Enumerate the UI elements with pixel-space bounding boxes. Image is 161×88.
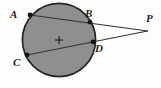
- geometry-figure: A B C D P: [0, 0, 161, 88]
- point-b-dot: [88, 20, 93, 25]
- point-label-d: D: [95, 43, 103, 54]
- point-c-dot: [25, 53, 30, 58]
- point-label-p: P: [146, 13, 153, 24]
- geometry-canvas: [0, 0, 161, 88]
- point-label-a: A: [10, 9, 17, 20]
- point-label-c: C: [13, 57, 20, 68]
- point-label-b: B: [85, 8, 92, 19]
- point-a-dot: [28, 13, 33, 18]
